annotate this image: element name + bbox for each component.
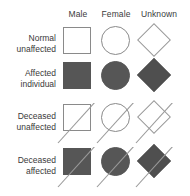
pedigree-legend: Male Female Unknown Normal unaffected Af…: [0, 0, 190, 196]
row-label-line2: unaffected: [0, 122, 56, 133]
row-label-normal-unaffected: Normal unaffected: [0, 33, 56, 54]
diamond-shape: [133, 61, 179, 105]
diamond-filled-icon: [137, 58, 171, 92]
square-outline-icon: [63, 27, 91, 54]
square-outline-icon: [63, 104, 91, 131]
diamond-shape: [133, 103, 179, 147]
diamond-outline-icon: [137, 100, 171, 134]
diamond-filled-icon: [137, 144, 171, 178]
column-header-male: Male: [62, 9, 94, 19]
column-header-unknown: Unknown: [136, 9, 182, 19]
row-label-line2: affected: [0, 166, 56, 177]
circle-outline-icon: [101, 26, 130, 55]
row-label-line1: Affected: [25, 68, 56, 78]
circle-filled-icon: [101, 61, 130, 90]
row-label-affected-individual: Affected individual: [0, 68, 56, 89]
column-header-female: Female: [97, 9, 135, 19]
symbol-deceased-affected-unknown: [133, 147, 179, 191]
square-filled-icon: [63, 148, 91, 175]
row-label-line1: Deceased: [18, 155, 56, 165]
row-label-line1: Normal: [29, 33, 56, 43]
row-label-line2: individual: [0, 79, 56, 90]
row-label-line1: Deceased: [18, 111, 56, 121]
symbol-deceased-unaffected-unknown: [133, 103, 179, 147]
diamond-shape: [133, 147, 179, 191]
row-label-deceased-unaffected: Deceased unaffected: [0, 111, 56, 132]
row-label-line2: unaffected: [0, 44, 56, 55]
square-filled-icon: [63, 62, 91, 89]
circle-filled-icon: [101, 147, 130, 176]
row-label-deceased-affected: Deceased affected: [0, 155, 56, 176]
diamond-outline-icon: [137, 23, 171, 57]
circle-outline-icon: [101, 103, 130, 132]
symbol-affected-individual-unknown: [133, 61, 179, 105]
